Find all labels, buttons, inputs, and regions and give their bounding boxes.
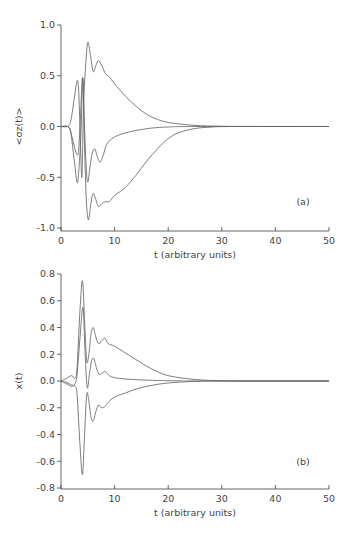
panel-b: 0.80.60.40.20.0-0.2-0.4-0.6-0.8010203040… — [13, 268, 335, 518]
y-tick-label: 0.8 — [40, 268, 55, 279]
panel-label: (b) — [296, 456, 309, 467]
series-line-curve-lower — [61, 78, 329, 220]
caption-cutoff — [8, 530, 348, 534]
x-tick-label: 30 — [216, 235, 228, 246]
y-tick-label: 0.0 — [40, 375, 55, 386]
y-tick-label: -0.8 — [36, 482, 55, 493]
caption-fragment — [8, 530, 348, 534]
x-tick-label: 20 — [162, 235, 174, 246]
y-tick-label: 0.5 — [40, 70, 55, 81]
x-tick-label: 10 — [109, 493, 121, 504]
panel-label: (a) — [296, 196, 309, 207]
x-tick-label: 50 — [323, 235, 335, 246]
x-tick-label: 0 — [58, 235, 64, 246]
x-tick-label: 40 — [269, 493, 281, 504]
x-tick-label: 50 — [323, 493, 335, 504]
y-tick-label: 0.0 — [40, 121, 55, 132]
y-tick-label: 0.6 — [40, 295, 55, 306]
y-tick-label: -1.0 — [36, 222, 55, 233]
y-tick-label: 0.4 — [40, 322, 55, 333]
series-line-curve-upper — [61, 42, 329, 178]
y-axis-label: <σz(t)> — [13, 107, 24, 145]
y-tick-label: -0.4 — [36, 429, 55, 440]
series-line-curve-upper — [61, 281, 329, 381]
x-tick-label: 30 — [216, 493, 228, 504]
figure: 1.00.50.0-0.5-1.001020304050t (arbitrary… — [0, 0, 354, 534]
x-tick-label: 0 — [58, 493, 64, 504]
y-tick-label: -0.2 — [36, 402, 55, 413]
x-tick-label: 20 — [162, 493, 174, 504]
x-tick-label: 10 — [109, 235, 121, 246]
series-line-curve-middle — [61, 307, 329, 388]
y-tick-label: -0.5 — [36, 172, 55, 183]
x-tick-label: 40 — [269, 235, 281, 246]
y-tick-label: -0.6 — [36, 456, 55, 467]
x-axis-label: t (arbitrary units) — [154, 507, 236, 518]
y-axis-label: x(t) — [13, 373, 24, 390]
series-line-curve-middle — [61, 78, 329, 183]
x-axis-label: t (arbitrary units) — [154, 249, 236, 260]
y-tick-label: 0.2 — [40, 349, 55, 360]
panel-a: 1.00.50.0-0.5-1.001020304050t (arbitrary… — [13, 19, 335, 260]
y-tick-label: 1.0 — [40, 19, 55, 30]
series-line-curve-lower — [61, 381, 329, 475]
